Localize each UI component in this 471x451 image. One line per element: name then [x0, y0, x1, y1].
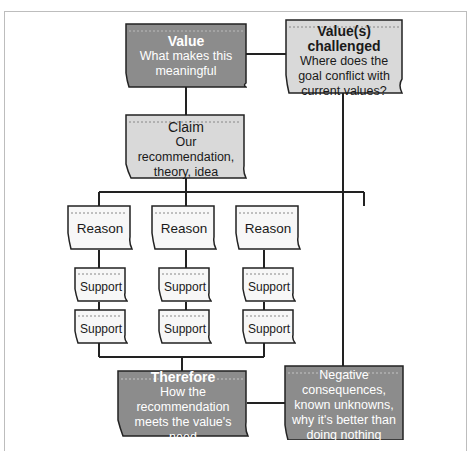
support-label: Support [248, 322, 290, 337]
reason-label: Reason [77, 221, 124, 236]
support-label: Support [164, 280, 206, 295]
support-box: Support [242, 267, 296, 303]
value-box: Value What makes this meaningful [125, 23, 247, 89]
value-challenged-subtitle: Where does the goal conflict with curren… [290, 54, 398, 99]
reason-label: Reason [245, 221, 292, 236]
claim-box: Claim Our recommendation, theory, idea [125, 114, 247, 180]
support-box: Support [242, 309, 296, 345]
therefore-box: Therefore How the recommendation meets t… [117, 370, 249, 438]
reason-box-2: Reason [151, 205, 217, 251]
value-challenged-title: Value(s) challenged [285, 24, 403, 54]
reason-box-3: Reason [235, 205, 301, 251]
support-box: Support [158, 267, 212, 303]
reason-box-1: Reason [67, 205, 133, 251]
value-title: Value [168, 34, 205, 49]
value-challenged-box: Value(s) challenged Where does the goal … [285, 19, 403, 95]
value-subtitle: What makes this meaningful [136, 49, 236, 79]
therefore-subtitle: How the recommendation meets the value's… [121, 385, 245, 445]
claim-title: Claim [168, 120, 204, 135]
therefore-title: Therefore [151, 370, 216, 385]
negatives-box: Negative consequences, known unknowns, w… [284, 365, 404, 440]
support-label: Support [80, 322, 122, 337]
support-box: Support [158, 309, 212, 345]
claim-subtitle: Our recommendation, theory, idea [130, 135, 242, 180]
negatives-text: Negative consequences, known unknowns, w… [286, 368, 402, 443]
support-box: Support [74, 309, 128, 345]
support-label: Support [248, 280, 290, 295]
support-label: Support [164, 322, 206, 337]
support-label: Support [80, 280, 122, 295]
support-box: Support [74, 267, 128, 303]
reason-label: Reason [161, 221, 208, 236]
